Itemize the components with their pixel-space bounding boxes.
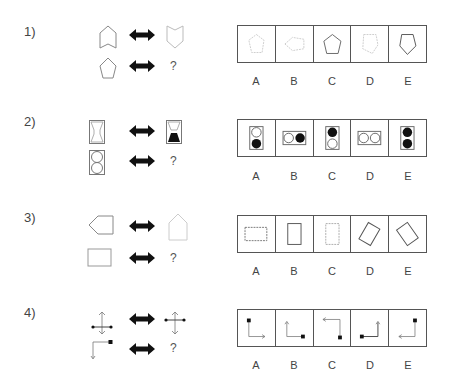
rectangle-vertical-icon	[276, 216, 313, 252]
option-label: D	[351, 75, 389, 87]
option-label: E	[389, 359, 427, 371]
hourglass-filled-icon	[166, 120, 182, 144]
option-3d[interactable]	[351, 216, 389, 252]
option-1e[interactable]	[389, 26, 426, 62]
shield-notched-icon	[165, 24, 185, 50]
circles-top-filled-icon	[314, 120, 351, 156]
option-2e[interactable]	[389, 120, 426, 156]
double-arrow-icon	[128, 312, 156, 326]
double-arrow-icon	[128, 28, 156, 42]
option-label: B	[275, 359, 313, 371]
corner-square-right-arrow-up-icon	[276, 310, 313, 346]
option-1c[interactable]	[314, 26, 352, 62]
option-label: D	[351, 170, 389, 182]
question-1-number: 1)	[24, 24, 36, 39]
option-1d[interactable]	[351, 26, 389, 62]
unknown-answer-mark: ?	[170, 341, 177, 355]
cross-dots-icon	[90, 310, 114, 336]
option-label: E	[389, 75, 427, 87]
pentagon-inverted-icon	[389, 26, 426, 62]
circles-bottom-filled-icon	[238, 120, 275, 156]
option-label: C	[313, 265, 351, 277]
corner-square-bottom-arrow-left-icon	[314, 310, 351, 346]
pentagon-icon	[98, 56, 118, 80]
question-3-number: 3)	[24, 210, 36, 225]
option-label: B	[275, 170, 313, 182]
rectangle-tilted-right-icon	[351, 216, 388, 252]
corner-square-top-arrow-left-icon	[389, 310, 426, 346]
option-3a[interactable]	[238, 216, 276, 252]
option-label: C	[313, 75, 351, 87]
option-1a[interactable]	[238, 26, 276, 62]
house-up-icon	[167, 212, 189, 242]
option-label: D	[351, 265, 389, 277]
option-3b[interactable]	[276, 216, 314, 252]
circles-horizontal-outline-icon	[351, 120, 388, 156]
rectangle-icon	[87, 248, 113, 268]
question-2-options	[237, 119, 427, 157]
option-label: E	[389, 170, 427, 182]
option-4b[interactable]	[276, 310, 314, 346]
option-4e[interactable]	[389, 310, 426, 346]
double-arrow-icon	[128, 154, 156, 168]
pentagon-upright-icon	[314, 26, 351, 62]
circles-both-filled-icon	[389, 120, 426, 156]
unknown-answer-mark: ?	[170, 59, 177, 73]
cross-dots-rotated-icon	[163, 310, 187, 336]
option-1b[interactable]	[276, 26, 314, 62]
pentagon-faint-icon	[238, 26, 275, 62]
pentagon-rotated-icon	[276, 26, 313, 62]
double-arrow-icon	[128, 219, 156, 233]
option-2d[interactable]	[351, 120, 389, 156]
double-arrow-icon	[128, 251, 156, 265]
circles-horizontal-right-filled-icon	[276, 120, 313, 156]
option-label: C	[313, 170, 351, 182]
option-2b[interactable]	[276, 120, 314, 156]
option-4d[interactable]	[351, 310, 389, 346]
option-label: A	[237, 265, 275, 277]
corner-square-left-arrow-up-icon	[351, 310, 388, 346]
option-label: B	[275, 265, 313, 277]
pentagon-inverted-faint-icon	[351, 26, 388, 62]
rectangle-horizontal-dashed-icon	[238, 216, 275, 252]
option-label: B	[275, 75, 313, 87]
pentagon-left-icon	[87, 214, 115, 236]
option-2a[interactable]	[238, 120, 276, 156]
question-3-options	[237, 215, 427, 253]
question-1-labels: A B C D E	[237, 75, 427, 87]
question-1-options	[237, 25, 427, 63]
option-4a[interactable]	[238, 310, 276, 346]
option-4c[interactable]	[314, 310, 352, 346]
option-label: A	[237, 170, 275, 182]
option-label: A	[237, 359, 275, 371]
option-label: D	[351, 359, 389, 371]
double-arrow-icon	[128, 124, 156, 138]
question-3-labels: A B C D E	[237, 265, 427, 277]
pentagon-arrow-icon	[98, 24, 118, 50]
double-arrow-icon	[128, 342, 156, 356]
question-4-number: 4)	[24, 305, 36, 320]
option-3c[interactable]	[314, 216, 352, 252]
unknown-answer-mark: ?	[170, 251, 177, 265]
rectangle-tilted-left-icon	[389, 216, 426, 252]
option-label: C	[313, 359, 351, 371]
rectangle-vertical-dashed-icon	[314, 216, 351, 252]
hourglass-outline-icon	[89, 120, 105, 144]
question-4-options	[237, 309, 427, 347]
question-2-number: 2)	[24, 114, 36, 129]
option-2c[interactable]	[314, 120, 352, 156]
option-3e[interactable]	[389, 216, 426, 252]
question-2-labels: A B C D E	[237, 170, 427, 182]
option-label: E	[389, 265, 427, 277]
question-4-labels: A B C D E	[237, 359, 427, 371]
option-label: A	[237, 75, 275, 87]
two-circles-icon	[89, 150, 105, 175]
corner-square-arrow-icon	[90, 339, 114, 361]
double-arrow-icon	[128, 59, 156, 73]
corner-square-top-arrow-right-icon	[238, 310, 275, 346]
unknown-answer-mark: ?	[170, 154, 177, 168]
